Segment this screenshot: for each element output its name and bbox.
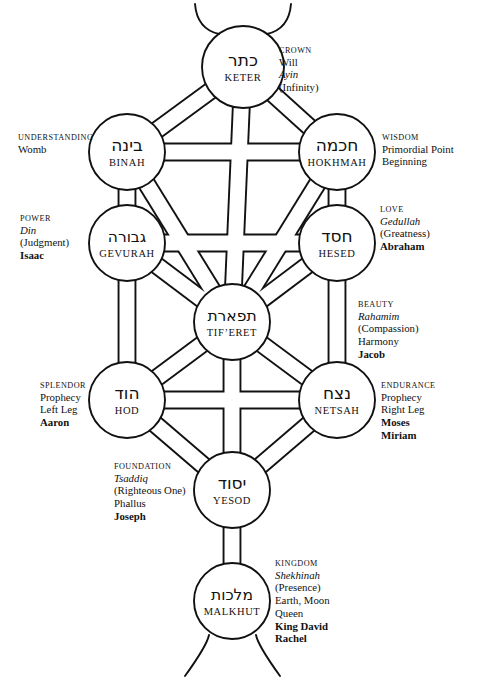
annotation-line-malkhut-0: KINGDOM	[275, 559, 330, 569]
annotation-line-gevurah-2: (Judgment)	[20, 236, 69, 249]
annotation-line-yesod-4: Joseph	[114, 510, 186, 523]
annotation-line-netsah-3: Moses	[381, 416, 436, 429]
sefirah-translit-tiferet: TIF’ERET	[207, 327, 257, 338]
annotation-line-hod-3: Aaron	[40, 416, 86, 429]
sefirah-label-yesod: יסודYESOD	[213, 473, 251, 506]
annotation-hod: SPLENDORProphecyLeft LegAaron	[40, 381, 86, 429]
annotation-line-hod-1: Prophecy	[40, 391, 86, 404]
sefirah-hebrew-malkhut: מלכות	[211, 586, 253, 604]
annotation-line-tiferet-2: (Compassion)	[358, 322, 419, 335]
extension-line-bottom-0	[185, 635, 209, 676]
annotation-line-yesod-1: Tsaddiq	[114, 472, 186, 485]
annotation-line-netsah-1: Prophecy	[381, 391, 436, 404]
sefirah-hebrew-tiferet: תפארת	[207, 307, 256, 325]
sefirah-hebrew-keter: כתר	[228, 50, 258, 70]
annotation-keter: CROWNWillAyin(Infinity)	[279, 46, 319, 94]
annotation-hesed: LOVEGedullah(Greatness)Abraham	[380, 205, 430, 253]
annotation-tiferet: BEAUTYRahamim(Compassion)HarmonyJacob	[358, 300, 419, 361]
annotation-line-yesod-0: FOUNDATION	[114, 462, 186, 472]
annotation-line-hokhmah-2: Beginning	[382, 155, 454, 168]
sefirah-hebrew-gevurah: גבורה	[108, 228, 146, 246]
annotation-binah: UNDERSTANDINGWomb	[18, 133, 93, 155]
annotation-line-hokhmah-0: WISDOM	[382, 133, 454, 143]
annotation-malkhut: KINGDOMShekhinah(Presence)Earth, MoonQue…	[275, 559, 330, 645]
sefirah-translit-netsah: NETSAH	[314, 405, 359, 416]
annotation-line-netsah-2: Right Leg	[381, 403, 436, 416]
annotation-line-netsah-4: Miriam	[381, 429, 436, 442]
sefirah-translit-gevurah: GEVURAH	[99, 248, 155, 259]
sefirah-translit-yesod: YESOD	[213, 495, 251, 506]
sefirah-translit-binah: BINAH	[109, 157, 145, 168]
sefirah-label-hod: הודHOD	[114, 383, 139, 416]
sefirah-hebrew-hod: הוד	[114, 383, 139, 403]
annotation-line-malkhut-6: Rachel	[275, 632, 330, 645]
annotation-line-gevurah-0: POWER	[20, 214, 69, 224]
annotation-line-tiferet-1: Rahamim	[358, 310, 419, 323]
annotation-line-tiferet-0: BEAUTY	[358, 300, 419, 310]
annotation-line-netsah-0: ENDURANCE	[381, 381, 436, 391]
annotation-line-malkhut-2: (Presence)	[275, 581, 330, 594]
annotation-line-yesod-3: Phallus	[114, 497, 186, 510]
annotation-line-gevurah-1: Din	[20, 224, 69, 237]
annotation-line-yesod-2: (Righteous One)	[114, 484, 186, 497]
annotation-line-malkhut-4: Queen	[275, 607, 330, 620]
sefirah-label-hokhmah: חכמהHOKHMAH	[307, 135, 366, 168]
sefirah-label-keter: כתרKETER	[225, 50, 262, 83]
sefirah-label-malkhut: מלכותMALKHUT	[204, 586, 261, 617]
sefirah-label-binah: בינהBINAH	[109, 135, 145, 168]
annotation-line-malkhut-1: Shekhinah	[275, 569, 330, 582]
sefirah-hebrew-yesod: יסוד	[218, 473, 247, 493]
sefirah-hebrew-hesed: חסד	[321, 226, 352, 246]
sefirah-label-tiferet: תפארתTIF’ERET	[207, 307, 257, 338]
annotation-line-hod-0: SPLENDOR	[40, 381, 86, 391]
sefirah-label-hesed: חסדHESED	[319, 226, 356, 259]
sefirah-hebrew-hokhmah: חכמה	[316, 135, 359, 155]
annotation-yesod: FOUNDATIONTsaddiq(Righteous One)PhallusJ…	[114, 462, 186, 523]
annotation-line-binah-0: UNDERSTANDING	[18, 133, 93, 143]
extension-line-top-1	[267, 4, 291, 34]
annotation-line-tiferet-4: Jacob	[358, 348, 419, 361]
annotation-line-keter-0: CROWN	[279, 46, 319, 56]
extension-line-top-0	[195, 4, 219, 34]
annotation-hokhmah: WISDOMPrimordial PointBeginning	[382, 133, 454, 168]
annotation-line-keter-2: Ayin	[279, 68, 319, 81]
sefirah-translit-hod: HOD	[115, 405, 140, 416]
annotation-line-hesed-2: (Greatness)	[380, 227, 430, 240]
sefirah-hebrew-binah: בינה	[111, 135, 143, 155]
sefirah-hebrew-netsah: נצח	[323, 383, 351, 403]
annotation-line-tiferet-3: Harmony	[358, 335, 419, 348]
annotation-gevurah: POWERDin(Judgment)Isaac	[20, 214, 69, 262]
annotation-line-malkhut-5: King David	[275, 620, 330, 633]
sefirah-translit-malkhut: MALKHUT	[204, 606, 261, 617]
sefirah-translit-keter: KETER	[225, 72, 262, 83]
annotation-line-hesed-3: Abraham	[380, 240, 430, 253]
annotation-netsah: ENDURANCEProphecyRight LegMosesMiriam	[381, 381, 436, 442]
annotation-line-keter-3: (Infinity)	[279, 81, 319, 94]
annotation-line-hesed-0: LOVE	[380, 205, 430, 215]
sefirah-translit-hesed: HESED	[319, 248, 356, 259]
annotation-line-malkhut-3: Earth, Moon	[275, 594, 330, 607]
sefirah-translit-hokhmah: HOKHMAH	[307, 157, 366, 168]
tree-of-life-diagram: כתרKETERבינהBINAHחכמהHOKHMAHגבורהGEVURAH…	[0, 0, 477, 682]
annotation-line-hokhmah-1: Primordial Point	[382, 143, 454, 156]
annotation-line-binah-1: Womb	[18, 143, 93, 156]
annotation-line-hesed-1: Gedullah	[380, 215, 430, 228]
annotation-line-hod-2: Left Leg	[40, 403, 86, 416]
annotation-line-gevurah-3: Isaac	[20, 249, 69, 262]
annotation-line-keter-1: Will	[279, 56, 319, 69]
